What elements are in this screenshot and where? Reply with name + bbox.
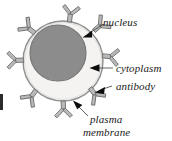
page-edge-mark: [0, 94, 3, 110]
antibody-icon: [7, 51, 24, 69]
figure-canvas: nucleus cytoplasm antibody plasma membra…: [0, 0, 172, 141]
label-cytoplasm: cytoplasm: [116, 62, 162, 74]
label-nucleus: nucleus: [103, 16, 137, 28]
nucleus-circle: [30, 25, 86, 81]
plasma-membrane-arrowhead: [73, 101, 82, 110]
plasma-membrane-callout: [73, 101, 88, 117]
label-plasma-membrane-line2: membrane: [83, 126, 130, 138]
antibody-callout: [95, 86, 113, 94]
cell-diagram: nucleus cytoplasm antibody plasma membra…: [0, 0, 172, 141]
label-antibody: antibody: [116, 80, 155, 92]
antibody-icon: [54, 101, 72, 118]
label-plasma-membrane-line1: plasma: [89, 113, 123, 125]
plasma-membrane-leader-line: [79, 107, 88, 116]
